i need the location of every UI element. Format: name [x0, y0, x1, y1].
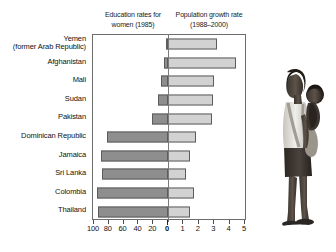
bar-education-rate	[102, 169, 168, 180]
chart-row	[93, 72, 245, 91]
left-column-title-line1: Education rates for	[105, 11, 161, 18]
bar-population-growth	[168, 39, 217, 50]
category-label-line: Pakistan	[0, 113, 86, 122]
bar-education-rate	[152, 113, 168, 124]
category-label-line: Jamaica	[0, 151, 86, 160]
category-label: Colombia	[0, 188, 86, 197]
category-label: Afghanistan	[0, 58, 86, 67]
chart-row	[93, 109, 245, 128]
category-label-line: Afghanistan	[0, 58, 86, 67]
category-label-line: (former Arab Republic)	[0, 43, 86, 52]
category-label: Sri Lanka	[0, 169, 86, 178]
chart-row	[93, 147, 245, 166]
category-label: Mali	[0, 76, 86, 85]
bar-education-rate	[101, 150, 168, 161]
bar-population-growth	[168, 188, 194, 199]
bar-population-growth	[168, 76, 214, 87]
bar-population-growth	[168, 57, 236, 68]
category-label-line: Thailand	[0, 206, 86, 215]
bar-education-rate	[97, 188, 168, 199]
bar-population-growth	[168, 113, 212, 124]
chart-figure: Education rates for women (1985) Populat…	[0, 0, 336, 252]
x-axis: 10080604020012345	[92, 220, 246, 242]
left-column-title-line2: women (1985)	[112, 21, 155, 28]
plot-area	[92, 34, 246, 220]
woman-with-baby-photo	[272, 62, 332, 234]
bar-population-growth	[168, 132, 196, 143]
chart-row	[93, 165, 245, 184]
bar-education-rate	[107, 132, 168, 143]
axis-tick-label: 5	[235, 224, 253, 233]
category-label: Dominican Republic	[0, 132, 86, 141]
right-column-title-line1: Population growth	[176, 11, 230, 18]
category-labels: Yemen(former Arab Republic)AfghanistanMa…	[0, 34, 88, 220]
chart-row	[93, 35, 245, 54]
bar-population-growth	[168, 150, 190, 161]
bar-population-growth	[168, 95, 213, 106]
bar-education-rate	[98, 206, 168, 217]
category-label: Thailand	[0, 206, 86, 215]
chart-row	[93, 54, 245, 73]
category-label: Pakistan	[0, 113, 86, 122]
bar-population-growth	[168, 169, 186, 180]
category-label: Sudan	[0, 95, 86, 104]
category-label-line: Dominican Republic	[0, 132, 86, 141]
bar-population-growth	[168, 206, 190, 217]
chart-row	[93, 184, 245, 203]
chart-row	[93, 202, 245, 221]
category-label-line: Mali	[0, 76, 86, 85]
category-label: Jamaica	[0, 151, 86, 160]
category-label-line: Colombia	[0, 188, 86, 197]
chart-row	[93, 128, 245, 147]
bar-education-rate	[161, 76, 168, 87]
right-column-title: Population growth rate (1988–2000)	[172, 10, 246, 29]
category-label-line: Sudan	[0, 95, 86, 104]
category-label: Yemen(former Arab Republic)	[0, 35, 86, 52]
bar-education-rate	[158, 95, 168, 106]
chart-row	[93, 91, 245, 110]
left-column-title: Education rates for women (1985)	[96, 10, 170, 29]
zero-axis-line	[168, 34, 169, 222]
category-label-line: Sri Lanka	[0, 169, 86, 178]
